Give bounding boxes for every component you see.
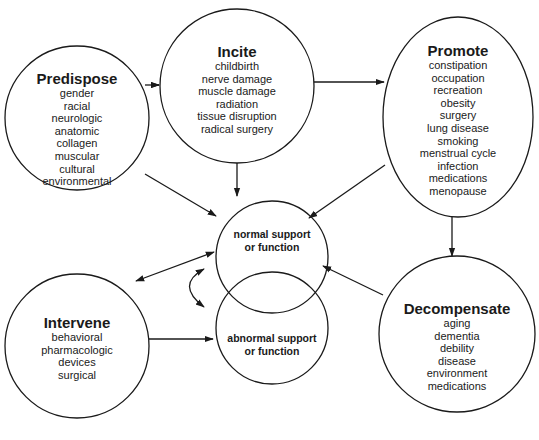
incite-item: muscle damage xyxy=(177,85,297,98)
incite-title: Incite xyxy=(177,43,297,60)
decompensate-item: debility xyxy=(392,342,522,355)
arrow-promote-normal xyxy=(309,165,385,218)
normal-line1: normal support xyxy=(233,228,310,240)
promote-node: Promote constipation occupation recreati… xyxy=(398,42,518,198)
intervene-item: pharmacologic xyxy=(17,344,137,357)
promote-item: constipation xyxy=(398,59,518,72)
promote-item: medications xyxy=(398,172,518,185)
arrow-normal-abnormal-curved xyxy=(190,269,205,307)
arrow-decompensate-normal xyxy=(323,266,383,295)
incite-item: radiation xyxy=(177,98,297,111)
incite-node: Incite childbirth nerve damage muscle da… xyxy=(177,43,297,136)
predispose-item: muscular xyxy=(17,150,137,163)
arrow-intervene-normal-bidirectional xyxy=(136,252,214,281)
promote-item: surgery xyxy=(398,109,518,122)
decompensate-item: disease xyxy=(392,355,522,368)
promote-item: menstrual cycle xyxy=(398,147,518,160)
predispose-item: gender xyxy=(17,87,137,100)
arrow-predispose-normal xyxy=(145,174,216,216)
decompensate-item: aging xyxy=(392,317,522,330)
incite-item: nerve damage xyxy=(177,73,297,86)
promote-item: infection xyxy=(398,160,518,173)
promote-item: smoking xyxy=(398,135,518,148)
predispose-item: environmental xyxy=(17,175,137,188)
predispose-title: Predispose xyxy=(17,70,137,87)
promote-item: recreation xyxy=(398,84,518,97)
predispose-node: Predispose gender racial neurologic anat… xyxy=(17,70,137,188)
intervene-item: devices xyxy=(17,356,137,369)
intervene-node: Intervene behavioral pharmacologic devic… xyxy=(17,314,137,381)
normal-line2: or function xyxy=(245,241,300,253)
normal-support-label: normal support or function xyxy=(212,228,332,253)
intervene-item: behavioral xyxy=(17,331,137,344)
predispose-item: racial xyxy=(17,100,137,113)
promote-title: Promote xyxy=(398,42,518,59)
abnormal-circle xyxy=(216,272,328,384)
promote-item: occupation xyxy=(398,72,518,85)
incite-item: radical surgery xyxy=(177,123,297,136)
intervene-title: Intervene xyxy=(17,314,137,331)
decompensate-title: Decompensate xyxy=(392,300,522,317)
incite-item: tissue disruption xyxy=(177,110,297,123)
predispose-item: neurologic xyxy=(17,112,137,125)
incite-item: childbirth xyxy=(177,60,297,73)
intervene-item: surgical xyxy=(17,369,137,382)
promote-item: menopause xyxy=(398,185,518,198)
decompensate-item: environment xyxy=(392,367,522,380)
abnormal-line1: abnormal support xyxy=(227,332,316,344)
promote-item: lung disease xyxy=(398,122,518,135)
decompensate-item: dementia xyxy=(392,330,522,343)
predispose-item: anatomic xyxy=(17,125,137,138)
abnormal-line2: or function xyxy=(245,345,300,357)
predispose-item: cultural xyxy=(17,163,137,176)
promote-item: obesity xyxy=(398,97,518,110)
abnormal-support-label: abnormal support or function xyxy=(207,332,337,357)
decompensate-node: Decompensate aging dementia debility dis… xyxy=(392,300,522,393)
decompensate-item: medications xyxy=(392,380,522,393)
normal-circle xyxy=(216,201,328,313)
predispose-item: collagen xyxy=(17,137,137,150)
